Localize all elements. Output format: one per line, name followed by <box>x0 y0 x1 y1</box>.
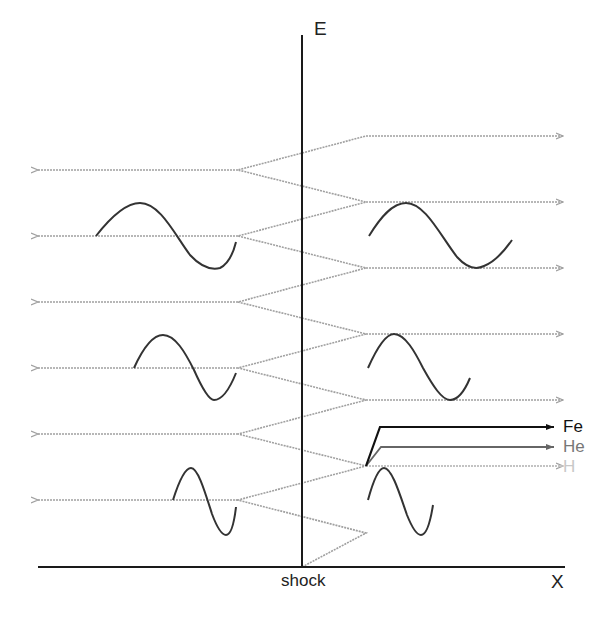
species-paths <box>366 427 563 466</box>
species-label-he: He <box>563 438 585 455</box>
position-axis-label: X <box>551 572 564 591</box>
downstream-paths <box>366 136 563 466</box>
shock-label: shock <box>281 572 325 589</box>
diagram-canvas <box>0 0 611 623</box>
upstream-paths <box>38 170 238 500</box>
energy-axis-label: E <box>314 19 327 38</box>
species-label-fe: Fe <box>563 418 583 435</box>
species-label-h: H <box>563 458 575 475</box>
